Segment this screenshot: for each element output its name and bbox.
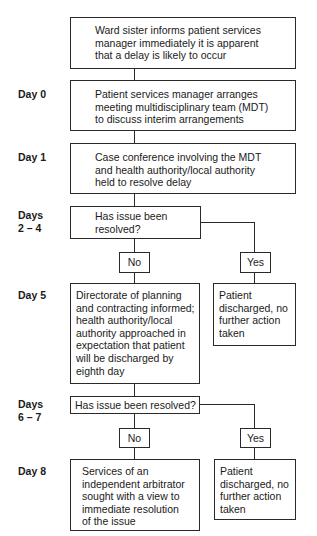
days-6-7-label: Days 6 – 7 [18, 398, 43, 423]
outcome2-box: Patient discharged, no further action ta… [214, 459, 296, 520]
connector-yes1-outcome1 [254, 272, 255, 283]
connector-decision2-yes-vertical [254, 404, 255, 428]
day-1-label: Day 1 [18, 151, 46, 164]
day-8-label: Day 8 [18, 465, 46, 478]
day0-box: Patient services manager arranges meetin… [70, 80, 296, 131]
day0-box-text: Patient services manager arranges meetin… [95, 88, 268, 126]
day-5-label: Day 5 [18, 289, 46, 302]
no2-box: No [119, 428, 150, 448]
connector-decision1-yes-vertical [254, 222, 255, 252]
connector-decision2-no2 [134, 413, 135, 428]
connector-decision1-yes-horizontal [200, 222, 255, 223]
outcome1-box: Patient discharged, no further action ta… [213, 283, 296, 346]
day5-box-text: Directorate of planning and contracting … [76, 289, 194, 377]
day5-box: Directorate of planning and contracting … [70, 283, 200, 384]
decision1-box: Has issue been resolved? [70, 206, 201, 239]
connector-day0-day1 [134, 130, 135, 143]
day1-box-text: Case conference involving the MDT and he… [95, 151, 261, 189]
outcome1-box-text: Patient discharged, no further action ta… [219, 289, 288, 339]
connector-day1-decision1 [134, 193, 135, 206]
yes2-box-text: Yes [247, 432, 264, 445]
outcome2-box-text: Patient discharged, no further action ta… [220, 465, 289, 515]
connector-decision1-no1 [134, 238, 135, 252]
no1-box-text: No [128, 256, 141, 269]
no2-box-text: No [128, 432, 141, 445]
connector-yes2-outcome2 [254, 447, 255, 459]
no1-box: No [119, 252, 150, 273]
decision2-box: Has issue been resolved? [70, 396, 200, 414]
day-0-label: Day 0 [18, 88, 46, 101]
decision2-box-text: Has issue been resolved? [75, 399, 196, 412]
connector-no2-day8 [134, 447, 135, 459]
decision1-box-text: Has issue been resolved? [95, 210, 167, 235]
connector-decision2-yes-horizontal [199, 404, 255, 405]
start-box-text: Ward sister informs patient services man… [95, 24, 261, 62]
connector-day5-decision2 [134, 383, 135, 396]
yes1-box-text: Yes [247, 256, 264, 269]
days-2-4-label: Days 2 – 4 [18, 209, 43, 234]
connector-start-day0 [134, 68, 135, 80]
yes2-box: Yes [240, 428, 271, 448]
day1-box: Case conference involving the MDT and he… [70, 143, 296, 194]
connector-no1-day5 [134, 272, 135, 283]
day8-box-text: Services of an independent arbitrator so… [82, 465, 185, 528]
start-box: Ward sister informs patient services man… [70, 17, 296, 69]
day8-box: Services of an independent arbitrator so… [70, 459, 200, 531]
yes1-box: Yes [240, 252, 271, 273]
